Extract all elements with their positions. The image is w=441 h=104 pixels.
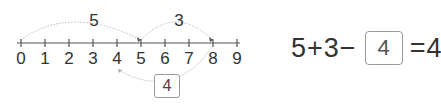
answer-box[interactable]: 4 bbox=[365, 31, 403, 65]
tick-label-8: 8 bbox=[208, 49, 217, 68]
result: 4 bbox=[426, 33, 441, 64]
arc-0-to-5 bbox=[21, 22, 141, 40]
minus-sign: − bbox=[340, 33, 356, 64]
operand-a: 5 bbox=[291, 33, 306, 64]
tick-label-0: 0 bbox=[16, 49, 25, 68]
equation: 5 + 3 − 4 = 4 bbox=[291, 30, 441, 66]
arc-label-3: 3 bbox=[174, 11, 183, 30]
equals-sign: = bbox=[410, 33, 426, 64]
tick-label-3: 3 bbox=[88, 49, 97, 68]
tick-label-5: 5 bbox=[136, 49, 145, 68]
tick-label-9: 9 bbox=[232, 49, 241, 68]
tick-labels: 0123456789 bbox=[16, 49, 241, 68]
tick-label-7: 7 bbox=[184, 49, 193, 68]
tick-label-2: 2 bbox=[64, 49, 73, 68]
tick-label-4: 4 bbox=[112, 49, 121, 68]
jump-back-box: 4 bbox=[154, 74, 180, 98]
tick-label-6: 6 bbox=[160, 49, 169, 68]
arc-label-5: 5 bbox=[89, 11, 98, 30]
operand-b: 3 bbox=[324, 33, 339, 64]
tick-label-1: 1 bbox=[40, 49, 49, 68]
plus-sign: + bbox=[307, 33, 323, 64]
